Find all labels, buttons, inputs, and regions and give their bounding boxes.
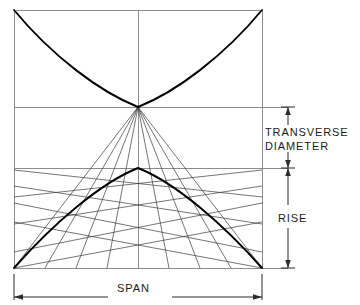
arrowhead-span-right: [253, 294, 262, 299]
construction-line: [138, 107, 200, 268]
rise-label: RISE: [278, 212, 307, 224]
span-label: SPAN: [117, 282, 150, 294]
construction-line: [138, 107, 262, 268]
construction-line: [14, 107, 138, 268]
hyperbola-diagram: TRANSVERSE DIAMETER RISE SPAN: [0, 0, 360, 305]
hyperbola-figure: TRANSVERSE DIAMETER RISE SPAN: [0, 0, 360, 305]
transverse-diameter-label-line2: DIAMETER: [265, 140, 329, 152]
arrowhead-transverse-bottom: [285, 160, 291, 168]
construction-line: [138, 107, 231, 268]
arrowhead-span-left: [14, 294, 23, 299]
arrowhead-transverse-top: [285, 107, 291, 115]
arrowhead-rise-top: [285, 168, 291, 176]
construction-line: [45, 107, 138, 268]
transverse-diameter-label-line1: TRANSVERSE: [265, 126, 349, 138]
arrowhead-rise-bottom: [285, 260, 291, 268]
construction-line: [76, 107, 138, 268]
